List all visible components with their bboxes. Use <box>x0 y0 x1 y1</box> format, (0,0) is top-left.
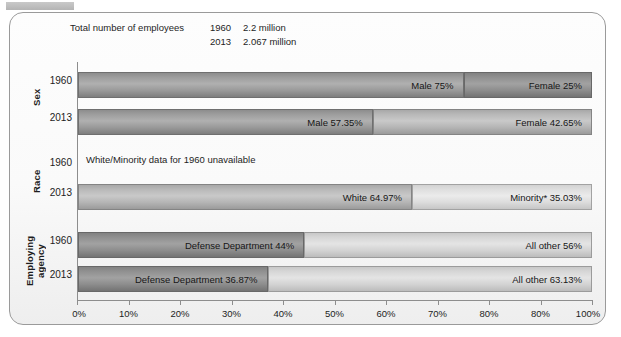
segment-label-sex-2013-female: Female 42.65% <box>515 117 591 128</box>
x-tick-5 <box>335 300 336 305</box>
x-tick-label-6: 60% <box>376 308 395 319</box>
row-year-race-1960: 1960 <box>38 157 72 168</box>
x-tick-label-5: 50% <box>325 308 344 319</box>
row-year-sex-2013: 2013 <box>38 112 72 123</box>
segment-sex-2013-female: Female 42.65% <box>373 109 592 135</box>
segment-label-race-2013-minority: Minority* 35.03% <box>510 192 591 203</box>
segment-label-agency-2013-allother: All other 63.13% <box>512 274 591 285</box>
x-tick-label-1: 10% <box>119 308 138 319</box>
x-tick-label-7: 70% <box>428 308 447 319</box>
x-tick-0 <box>77 300 78 305</box>
x-tick-8 <box>489 300 490 305</box>
total-employees-note: Total number of employees19602.2 million… <box>70 21 296 48</box>
segment-agency-2013-defense: Defense Department 36.87% <box>78 266 268 292</box>
segment-label-sex-1960-female: Female 25% <box>529 80 591 91</box>
x-tick-3 <box>232 300 233 305</box>
segment-label-agency-2013-defense: Defense Department 36.87% <box>135 274 267 285</box>
x-tick-label-2: 20% <box>170 308 189 319</box>
bar-agency-2013: Defense Department 36.87% All other 63.1… <box>78 266 592 292</box>
segment-label-sex-2013-male: Male 57.35% <box>307 117 371 128</box>
note-value-2013: 2.067 million <box>243 35 296 49</box>
x-tick-1 <box>129 300 130 305</box>
note-value-1960: 2.2 million <box>243 21 286 35</box>
x-tick-10 <box>592 300 593 305</box>
bar-agency-1960: Defense Department 44% All other 56% <box>78 232 592 258</box>
x-tick-label-3: 30% <box>222 308 241 319</box>
race-1960-nodata-note: White/Minority data for 1960 unavailable <box>86 154 256 165</box>
x-tick-7 <box>438 300 439 305</box>
note-label: Total number of employees <box>70 21 210 35</box>
note-year-1960: 1960 <box>210 21 243 35</box>
segment-agency-2013-allother: All other 63.13% <box>268 266 593 292</box>
segment-label-agency-1960-allother: All other 56% <box>525 240 591 251</box>
segment-label-agency-1960-defense: Defense Department 44% <box>185 240 303 251</box>
row-year-race-2013: 2013 <box>38 187 72 198</box>
segment-sex-2013-male: Male 57.35% <box>78 109 373 135</box>
segment-agency-1960-allother: All other 56% <box>304 232 592 258</box>
scan-artifact <box>6 2 74 10</box>
bar-sex-2013: Male 57.35% Female 42.65% <box>78 109 592 135</box>
chart-root: Total number of employees19602.2 million… <box>0 0 621 337</box>
row-year-agency-2013: 2013 <box>38 269 72 280</box>
segment-race-2013-white: White 64.97% <box>78 184 412 210</box>
bar-race-2013: White 64.97% Minority* 35.03% <box>78 184 592 210</box>
x-tick-label-4: 40% <box>273 308 292 319</box>
x-tick-6 <box>386 300 387 305</box>
note-year-2013: 2013 <box>210 35 243 49</box>
x-tick-4 <box>283 300 284 305</box>
row-year-agency-1960: 1960 <box>38 235 72 246</box>
x-tick-9 <box>541 300 542 305</box>
plot-area: 0% 10% 20% 30% 40% 50% 60% 70% 80% 80% 1… <box>77 62 592 300</box>
x-tick-label-0: 0% <box>72 308 86 319</box>
segment-sex-1960-female: Female 25% <box>464 72 593 98</box>
row-year-sex-1960: 1960 <box>38 75 72 86</box>
x-tick-label-8: 80% <box>479 308 498 319</box>
segment-agency-1960-defense: Defense Department 44% <box>78 232 304 258</box>
segment-label-race-2013-white: White 64.97% <box>343 192 411 203</box>
segment-sex-1960-male: Male 75% <box>78 72 464 98</box>
x-tick-label-9: 80% <box>531 308 550 319</box>
segment-race-2013-minority: Minority* 35.03% <box>412 184 592 210</box>
bar-sex-1960: Male 75% Female 25% <box>78 72 592 98</box>
x-tick-label-10: 100% <box>576 308 600 319</box>
segment-label-sex-1960-male: Male 75% <box>411 80 462 91</box>
x-tick-2 <box>180 300 181 305</box>
